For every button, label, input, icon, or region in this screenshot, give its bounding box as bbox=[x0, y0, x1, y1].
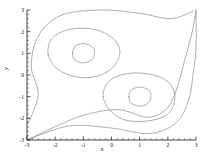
y-tick-label: -1 bbox=[19, 94, 24, 100]
contour-inner-ring-upper-left bbox=[73, 44, 95, 63]
y-tick-label: -2 bbox=[19, 115, 24, 121]
contour-separatrix-inner bbox=[27, 10, 196, 140]
contour-mid-ring-lower-right bbox=[103, 73, 175, 122]
contour-separatrix-outer bbox=[27, 10, 196, 140]
y-axis-label: y bbox=[3, 67, 10, 70]
plot-canvas: -3-2-10123-3-2-10123 bbox=[0, 0, 204, 168]
contour-mid-ring-upper-left bbox=[48, 28, 120, 78]
contour-lines-group bbox=[27, 10, 196, 140]
y-tick-label: 0 bbox=[21, 72, 24, 78]
contour-inner-ring-lower-right bbox=[129, 87, 151, 106]
x-axis-label: x bbox=[0, 146, 204, 153]
y-tick-label: 1 bbox=[21, 50, 24, 56]
y-tick-label: 3 bbox=[21, 7, 24, 13]
axes-group bbox=[27, 10, 196, 140]
y-tick-label: 2 bbox=[21, 29, 24, 35]
contour-plot-figure: -3-2-10123-3-2-10123 x y bbox=[0, 0, 204, 168]
y-tick-label: -3 bbox=[19, 137, 24, 143]
contour-outer-envelope bbox=[28, 10, 193, 123]
